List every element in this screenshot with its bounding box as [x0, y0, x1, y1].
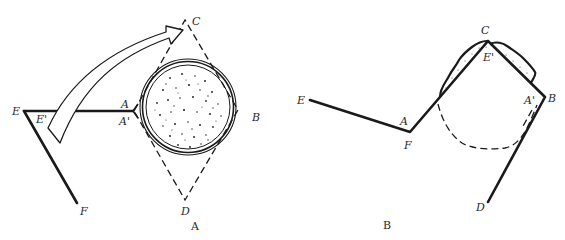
label-e: E [11, 105, 20, 118]
vertex-a-notch [133, 104, 138, 118]
label-a-prime: A' [523, 94, 535, 107]
label-e-prime: E' [35, 113, 47, 126]
label-b: B [251, 111, 260, 124]
dashed-arc [438, 104, 537, 149]
stippled-circle [140, 59, 236, 155]
label-e: E [296, 94, 305, 107]
label-f: F [79, 205, 88, 218]
label-c: C [192, 15, 201, 28]
polyline-e-f-c-b-d [310, 41, 545, 202]
label-b: B [547, 92, 556, 105]
label-a: A [399, 115, 408, 128]
panel-a: E E' A A' C B D F A [11, 15, 260, 233]
panel-b-caption: B [383, 219, 391, 232]
label-c: C [481, 24, 490, 37]
label-a: A [120, 98, 129, 111]
diagram-figure: E E' A A' C B D F A E A F C E' A' B [0, 0, 565, 240]
label-e-prime: E' [482, 51, 494, 64]
label-d: D [180, 205, 190, 218]
label-a-prime: A' [118, 115, 130, 128]
label-d: D [475, 201, 485, 214]
panel-a-caption: A [190, 220, 200, 233]
panel-b: E A F C E' A' B D B [296, 24, 556, 232]
label-f: F [403, 139, 412, 152]
dashed-diamond [134, 20, 238, 200]
